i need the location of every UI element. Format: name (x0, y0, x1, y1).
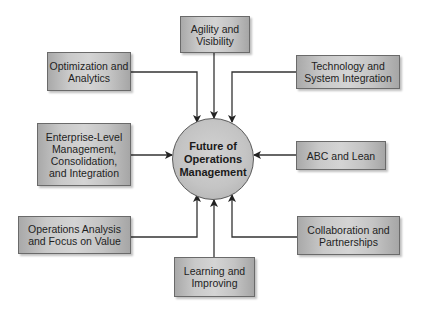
arrow-collaboration (232, 195, 297, 237)
node-learning-and-improving: Learning and Improving (174, 257, 255, 297)
node-abc-and-lean: ABC and Lean (296, 141, 386, 170)
node-enterprise-level-management: Enterprise-Level Management, Consolidati… (37, 123, 131, 186)
center-node-future-of-operations-management: Future of Operations Management (172, 118, 254, 200)
node-technology-and-system-integration: Technology and System Integration (296, 55, 400, 89)
node-agility-and-visibility: Agility and Visibility (180, 16, 250, 53)
node-optimization-and-analytics: Optimization and Analytics (47, 52, 131, 91)
arrow-optimization (131, 72, 197, 122)
node-operations-analysis: Operations Analysis and Focus on Value (18, 216, 131, 254)
arrow-operations-analysis (131, 195, 197, 237)
arrow-technology (232, 72, 296, 122)
node-collaboration-and-partnerships: Collaboration and Partnerships (297, 216, 400, 255)
